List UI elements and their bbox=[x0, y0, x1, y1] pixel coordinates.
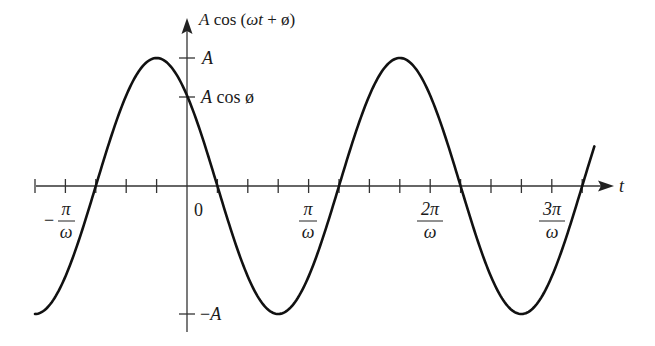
fraction-denominator: ω bbox=[424, 222, 437, 242]
y-label-Acos: A cos ø bbox=[200, 87, 254, 107]
y-axis-title: A cos (ωt + ø) bbox=[198, 10, 295, 29]
x-label-pi-over-omega: π ω bbox=[299, 199, 317, 242]
y-label-A: A bbox=[201, 48, 214, 68]
fraction-denominator: ω bbox=[546, 222, 559, 242]
x-label-neg-pi-over-omega: − π ω bbox=[44, 199, 75, 242]
fraction-numerator: 3π bbox=[542, 199, 562, 219]
x-label-3pi-over-omega: 3π ω bbox=[539, 199, 565, 242]
fraction-numerator: π bbox=[303, 199, 313, 219]
y-label-negA: −A bbox=[200, 304, 222, 324]
x-label-zero: 0 bbox=[194, 200, 203, 220]
fraction-denominator: ω bbox=[60, 222, 73, 242]
fraction-denominator: ω bbox=[302, 222, 315, 242]
cosine-chart: A cos (ωt + ø) A A cos ø −A t 0 − π ω π … bbox=[0, 0, 655, 346]
fraction-numerator: 2π bbox=[421, 199, 440, 219]
minus-sign: − bbox=[44, 210, 54, 230]
fraction-numerator: π bbox=[61, 199, 71, 219]
x-label-2pi-over-omega: 2π ω bbox=[417, 199, 443, 242]
x-axis-title: t bbox=[619, 176, 625, 196]
